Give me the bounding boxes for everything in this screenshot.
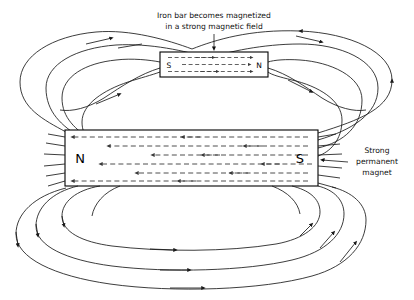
field-line-left-entry-5 [46, 173, 65, 176]
permanent-magnet: N S [65, 130, 318, 186]
field-line-bottom-3 [16, 187, 366, 289]
field-line-bottom-stub-left [92, 186, 120, 216]
iron-bar-pole-north: N [256, 61, 262, 70]
field-line-bottom-1 [62, 186, 320, 250]
field-line-right-entry-6 [318, 183, 336, 188]
caption-block: Iron bar becomes magnetized in a strong … [157, 11, 271, 49]
field-line-bottom-stub-right [272, 186, 300, 214]
field-line-arrow-top-1l [86, 38, 112, 44]
field-line-group-bottom [16, 186, 366, 289]
side-label-leader-line [322, 160, 348, 162]
figure-canvas: S N Iron bar becomes magnetized in a str… [0, 0, 414, 300]
field-line-left-entry-1 [48, 134, 65, 137]
side-label-line-3: magnet [362, 168, 391, 177]
field-line-right-entry-1 [318, 134, 336, 137]
field-line-bottom-2 [36, 186, 344, 270]
field-line-group-left-entries [44, 134, 65, 186]
magnet-pole-north: N [75, 151, 85, 166]
field-line-arrow-top-1r [296, 36, 322, 42]
caption-line-2: in a strong magnetic field [165, 22, 263, 31]
caption-line-1: Iron bar becomes magnetized [157, 11, 271, 20]
field-line-left-entry-6 [48, 181, 65, 186]
side-label-line-2: permanent [356, 157, 398, 166]
field-line-left-entry-3 [44, 154, 65, 155]
field-line-left-entry-4 [44, 164, 65, 166]
side-label-block: Strong permanent magnet [322, 146, 398, 177]
iron-bar-body [160, 52, 268, 77]
field-line-top-3b [62, 59, 160, 140]
iron-bar: S N [160, 52, 268, 77]
field-line-right-entry-4 [318, 166, 342, 168]
field-line-top-1b [20, 31, 192, 132]
field-line-right-entry-5 [318, 175, 340, 178]
magnet-pole-south: S [296, 151, 304, 166]
permanent-magnet-body [65, 130, 318, 186]
side-label-line-1: Strong [364, 146, 389, 155]
iron-bar-pole-south: S [167, 61, 172, 70]
magnetic-field-diagram: S N Iron bar becomes magnetized in a str… [0, 0, 414, 300]
field-line-left-entry-2 [46, 143, 65, 146]
